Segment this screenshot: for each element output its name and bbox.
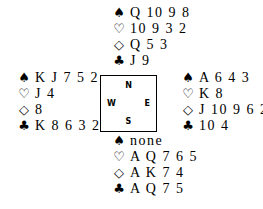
compass-box: N W E S <box>100 75 157 132</box>
west-hand: ♠K J 7 5 2 ♡J 4 ◇8 ♣K 8 6 3 2 <box>17 70 101 134</box>
diamond-icon: ◇ <box>112 165 126 181</box>
north-spades: Q 10 9 8 <box>130 5 191 20</box>
south-hand: ♠none ♡A Q 7 6 5 ◇A K 7 4 ♣A Q 7 5 <box>112 133 198 197</box>
east-hearts: K 8 <box>199 86 224 101</box>
east-spades: A 6 4 3 <box>199 70 250 85</box>
west-diamonds: 8 <box>35 102 44 117</box>
diamond-icon: ◇ <box>17 102 31 118</box>
west-hearts: J 4 <box>35 86 55 101</box>
west-clubs-row: ♣K 8 6 3 2 <box>17 118 101 134</box>
south-spades: none <box>130 133 163 148</box>
east-clubs-row: ♣10 4 <box>181 118 263 134</box>
south-spades-row: ♠none <box>112 133 198 149</box>
west-hearts-row: ♡J 4 <box>17 86 101 102</box>
east-hand: ♠A 6 4 3 ♡K 8 ◇J 10 9 6 2 ♣10 4 <box>181 70 263 134</box>
club-icon: ♣ <box>181 118 195 134</box>
east-diamonds: J 10 9 6 2 <box>199 102 263 117</box>
north-hand: ♠Q 10 9 8 ♡10 9 3 2 ◇Q 5 3 ♣J 9 <box>112 5 191 69</box>
north-clubs-row: ♣J 9 <box>112 53 191 69</box>
compass-west-label: W <box>107 99 116 108</box>
south-diamonds-row: ◇A K 7 4 <box>112 165 198 181</box>
east-diamonds-row: ◇J 10 9 6 2 <box>181 102 263 118</box>
spade-icon: ♠ <box>112 133 126 149</box>
spade-icon: ♠ <box>17 70 31 86</box>
west-spades: K J 7 5 2 <box>35 70 99 85</box>
north-diamonds-row: ◇Q 5 3 <box>112 37 191 53</box>
north-diamonds: Q 5 3 <box>130 37 169 52</box>
south-diamonds: A K 7 4 <box>130 165 184 180</box>
south-hearts-row: ♡A Q 7 6 5 <box>112 149 198 165</box>
north-hearts-row: ♡10 9 3 2 <box>112 21 191 37</box>
heart-icon: ♡ <box>112 21 126 37</box>
diamond-icon: ◇ <box>112 37 126 53</box>
compass-east-label: E <box>145 99 150 108</box>
diamond-icon: ◇ <box>181 102 195 118</box>
east-spades-row: ♠A 6 4 3 <box>181 70 263 86</box>
club-icon: ♣ <box>112 53 126 69</box>
spade-icon: ♠ <box>181 70 195 86</box>
compass-north-label: N <box>101 81 156 90</box>
club-icon: ♣ <box>17 118 31 134</box>
west-clubs: K 8 6 3 2 <box>35 118 101 133</box>
heart-icon: ♡ <box>112 149 126 165</box>
club-icon: ♣ <box>112 181 126 197</box>
north-hearts: 10 9 3 2 <box>130 21 188 36</box>
east-clubs: 10 4 <box>199 118 230 133</box>
north-spades-row: ♠Q 10 9 8 <box>112 5 191 21</box>
heart-icon: ♡ <box>17 86 31 102</box>
spade-icon: ♠ <box>112 5 126 21</box>
south-hearts: A Q 7 6 5 <box>130 149 198 164</box>
south-clubs-row: ♣A Q 7 5 <box>112 181 198 197</box>
south-clubs: A Q 7 5 <box>130 181 184 196</box>
north-clubs: J 9 <box>130 53 150 68</box>
west-spades-row: ♠K J 7 5 2 <box>17 70 101 86</box>
west-diamonds-row: ◇8 <box>17 102 101 118</box>
heart-icon: ♡ <box>181 86 195 102</box>
east-hearts-row: ♡K 8 <box>181 86 263 102</box>
compass-south-label: S <box>101 117 156 126</box>
